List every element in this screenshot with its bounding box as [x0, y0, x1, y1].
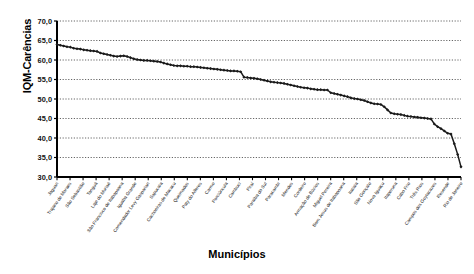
data-point-marker — [65, 45, 68, 48]
y-axis-tick-label: 55,0 — [38, 75, 52, 84]
data-point-marker — [219, 68, 222, 71]
y-axis-tick-label: 65,0 — [38, 36, 52, 45]
data-point-marker — [82, 48, 85, 51]
data-point-marker — [266, 80, 269, 83]
data-point-marker — [353, 97, 356, 100]
data-point-marker — [249, 76, 252, 79]
data-point-marker — [259, 78, 262, 81]
x-axis-tick-label: Jaguari — [47, 181, 60, 196]
data-point-marker — [209, 67, 212, 70]
series-line — [57, 44, 461, 166]
data-point-marker — [146, 59, 149, 62]
data-point-marker — [303, 86, 306, 89]
data-point-marker — [376, 103, 379, 106]
data-point-marker — [252, 77, 255, 80]
data-point-marker — [59, 44, 62, 47]
data-point-marker — [116, 55, 119, 58]
data-point-marker — [102, 52, 105, 55]
data-point-marker — [413, 115, 416, 118]
data-point-marker — [289, 83, 292, 86]
data-point-marker — [142, 59, 145, 62]
data-point-marker — [316, 88, 319, 91]
data-point-marker — [269, 80, 272, 83]
data-point-marker — [192, 65, 195, 68]
data-point-marker — [212, 67, 215, 70]
y-axis-tick-label: 60,0 — [38, 56, 52, 65]
x-axis-tick-label: Piraí — [245, 181, 255, 192]
data-point-marker — [236, 70, 239, 73]
data-point-marker — [179, 64, 182, 67]
x-axis-title: Municípios — [0, 248, 474, 260]
data-point-marker — [196, 65, 199, 68]
data-point-marker — [122, 54, 125, 57]
data-point-marker — [89, 49, 92, 52]
data-point-marker — [279, 81, 282, 84]
data-point-marker — [343, 94, 346, 97]
x-axis-tick-label: Tanguá — [86, 181, 99, 197]
data-point-marker — [423, 117, 426, 120]
data-point-marker — [323, 88, 326, 91]
data-point-marker — [293, 84, 296, 87]
data-point-marker — [79, 48, 82, 51]
data-point-marker — [459, 165, 462, 168]
chart-figure: IQM-Carências Municípios 70,065,060,055,… — [0, 0, 474, 274]
data-point-marker — [426, 117, 429, 120]
data-point-marker — [373, 102, 376, 105]
data-point-marker — [119, 55, 122, 58]
x-axis-tick-labels-group: JaguariTrajano de MoraesSão SebastiãoTan… — [46, 181, 463, 234]
data-point-marker — [333, 92, 336, 95]
data-point-marker — [189, 65, 192, 68]
data-point-marker — [276, 81, 279, 84]
data-point-marker — [226, 69, 229, 72]
data-point-marker — [286, 83, 289, 86]
data-point-marker — [296, 85, 299, 88]
data-point-marker — [319, 88, 322, 91]
data-point-marker — [356, 97, 359, 100]
data-point-marker — [169, 63, 172, 66]
data-point-marker — [393, 112, 396, 115]
data-point-marker — [409, 115, 412, 118]
data-point-marker — [206, 67, 209, 70]
data-point-marker — [176, 64, 179, 67]
data-point-marker — [246, 76, 249, 79]
data-point-marker — [92, 49, 95, 52]
data-point-marker — [55, 43, 58, 46]
y-axis-tick-label: 35,0 — [38, 153, 52, 162]
line-chart-plot: 70,065,060,055,050,045,040,035,030,0 Jag… — [0, 0, 474, 274]
data-point-marker — [172, 64, 175, 67]
x-axis-tick-label: Carmo — [204, 181, 216, 196]
x-axis-tick-label: Itatiaia — [347, 181, 359, 195]
y-axis-tick-label: 45,0 — [38, 114, 52, 123]
y-axis-tick-label: 50,0 — [38, 95, 52, 104]
data-point-marker — [309, 87, 312, 90]
data-point-marker — [306, 87, 309, 90]
data-point-marker — [399, 113, 402, 116]
data-point-marker — [182, 65, 185, 68]
data-point-marker — [232, 69, 235, 72]
y-axis-title: IQM-Carências — [21, 0, 33, 131]
data-point-marker — [112, 55, 115, 58]
data-point-marker — [313, 88, 316, 91]
y-axis-tick-label: 30,0 — [38, 173, 52, 182]
y-axis-tick-label: 70,0 — [38, 17, 52, 26]
data-point-marker — [396, 113, 399, 116]
y-axis-ticks-group: 70,065,060,055,050,045,040,035,030,0 — [38, 17, 57, 182]
data-point-marker — [136, 58, 139, 61]
data-point-marker — [106, 53, 109, 56]
data-point-marker — [403, 114, 406, 117]
data-point-marker — [339, 94, 342, 97]
data-point-marker — [216, 68, 219, 71]
data-series-group — [55, 43, 462, 169]
data-point-marker — [336, 93, 339, 96]
data-point-marker — [272, 81, 275, 84]
data-point-marker — [299, 86, 302, 89]
data-point-marker — [229, 69, 232, 72]
data-point-marker — [166, 62, 169, 65]
gridlines-group — [57, 21, 461, 177]
data-point-marker — [199, 66, 202, 69]
data-point-marker — [282, 82, 285, 85]
data-point-marker — [406, 115, 409, 118]
data-point-marker — [156, 60, 159, 63]
data-point-marker — [139, 58, 142, 61]
data-point-marker — [75, 47, 78, 50]
